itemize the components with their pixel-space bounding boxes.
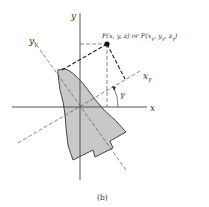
point-p — [104, 41, 109, 46]
y-axis-label: y — [70, 11, 77, 21]
projection-to-y-gamma — [62, 44, 107, 70]
x-axis-label: x — [150, 103, 155, 113]
rotation-diagram: y x yγ xγ γ P(x, y, z) or P(xγ, yγ, zγ) … — [0, 0, 209, 207]
point-p-label: P(x, y, z) or P(xγ, yγ, zγ) — [101, 32, 178, 41]
gamma-angle-arc — [114, 88, 118, 107]
projection-to-x-gamma — [107, 44, 125, 79]
y-gamma-label: yγ — [28, 36, 38, 48]
x-gamma-label: xγ — [143, 71, 152, 83]
gamma-angle-label: γ — [120, 90, 125, 99]
shuttle-shape — [58, 69, 126, 161]
gamma-arrowhead-icon — [112, 86, 116, 91]
figure-caption: (b) — [97, 193, 108, 202]
